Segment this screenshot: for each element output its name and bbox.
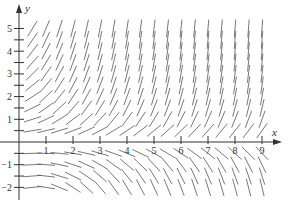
y-axis-arrow-icon: [16, 4, 22, 13]
direction-segment: [257, 123, 267, 138]
direction-segment: [124, 88, 130, 105]
direction-segment: [216, 124, 228, 138]
direction-segment: [51, 184, 68, 191]
direction-segment: [24, 117, 41, 123]
direction-segment: [66, 114, 80, 125]
y-tick-label: 3: [7, 68, 12, 79]
direction-segment: [92, 160, 108, 169]
direction-segment: [204, 111, 211, 127]
y-tick-label: 2: [7, 91, 12, 102]
direction-segment: [53, 102, 66, 114]
x-tick-label: 5: [152, 145, 157, 156]
direction-segment: [106, 126, 121, 135]
direction-segment: [217, 157, 226, 173]
direction-segment: [37, 175, 55, 177]
direction-segment: [164, 179, 171, 196]
direction-segment: [122, 112, 133, 126]
axes: x y 123456789 54321−1−2: [0, 2, 282, 200]
x-tick-label: 9: [260, 145, 265, 156]
direction-segment: [246, 168, 252, 185]
direction-segment: [245, 111, 251, 128]
direction-segment: [160, 149, 175, 158]
y-tick-label: −2: [1, 182, 12, 193]
x-ticks: 123456789: [44, 136, 265, 156]
direction-segment: [229, 124, 240, 138]
direction-segments: [24, 20, 269, 197]
direction-segment: [27, 44, 38, 58]
direction-segment: [231, 157, 240, 173]
direction-segment: [108, 180, 118, 195]
direction-segment: [24, 186, 42, 188]
x-tick-label: 2: [71, 145, 76, 156]
direction-segment: [242, 147, 255, 160]
direction-segment: [232, 111, 239, 128]
x-tick-label: 7: [206, 145, 211, 156]
direction-segment: [25, 92, 40, 102]
direction-segment: [92, 126, 108, 134]
direction-segment: [177, 111, 185, 127]
direction-segment: [122, 180, 131, 195]
direction-segment: [215, 147, 229, 159]
x-axis-arrow-icon: [273, 139, 282, 145]
direction-segment: [40, 78, 52, 92]
direction-segment: [178, 99, 184, 116]
direction-segment: [243, 123, 254, 137]
direction-segment: [219, 99, 224, 116]
direction-segment: [177, 168, 185, 184]
direction-segment: [39, 90, 52, 102]
direction-segment: [191, 111, 199, 127]
slope-field-diagram: x y 123456789 54321−1−2: [0, 0, 287, 206]
direction-segment: [28, 21, 37, 36]
direction-segment: [82, 89, 91, 105]
direction-segment: [37, 186, 55, 189]
x-tick-label: 6: [179, 145, 184, 156]
direction-segment: [95, 100, 105, 115]
direction-segment: [150, 179, 158, 195]
direction-segment: [26, 80, 40, 91]
y-tick-label: 1: [7, 114, 12, 125]
direction-segment: [246, 99, 250, 116]
direction-segment: [149, 168, 158, 183]
direction-segment: [137, 100, 144, 116]
direction-segment: [188, 124, 200, 137]
direction-segment: [96, 88, 104, 104]
direction-segment: [205, 99, 210, 116]
direction-segment: [218, 111, 225, 128]
direction-segment: [258, 157, 266, 173]
y-tick-label: −1: [1, 159, 12, 170]
direction-segment: [80, 181, 93, 193]
direction-segment: [80, 113, 93, 125]
x-axis-label: x: [271, 126, 277, 138]
direction-segment: [161, 125, 174, 137]
x-tick-label: 4: [125, 145, 130, 156]
direction-segment: [52, 115, 67, 124]
direction-segment: [120, 126, 135, 136]
direction-segment: [106, 160, 121, 170]
direction-segment: [24, 129, 42, 132]
direction-segment: [187, 148, 202, 159]
direction-segment: [164, 100, 170, 117]
direction-segment: [39, 103, 54, 113]
x-tick-label: 1: [44, 145, 49, 156]
y-ticks: 54321−1−2: [1, 23, 24, 193]
direction-segment: [202, 124, 214, 137]
direction-segment: [123, 100, 131, 116]
direction-segment: [120, 159, 134, 171]
direction-segment: [192, 99, 197, 116]
direction-segment: [24, 104, 40, 112]
direction-segment: [233, 99, 238, 116]
direction-segment: [218, 168, 225, 185]
direction-segment: [51, 163, 69, 167]
direction-segment: [244, 157, 252, 173]
direction-segment: [259, 111, 265, 128]
y-axis-label: y: [24, 2, 30, 14]
direction-segment: [136, 179, 144, 195]
direction-segment: [203, 157, 213, 172]
direction-segment: [109, 100, 118, 116]
direction-segment: [149, 112, 158, 127]
direction-segment: [259, 167, 264, 184]
direction-segment: [163, 168, 172, 184]
direction-segment: [175, 124, 188, 137]
direction-segment: [27, 56, 39, 69]
direction-segment: [133, 125, 147, 136]
